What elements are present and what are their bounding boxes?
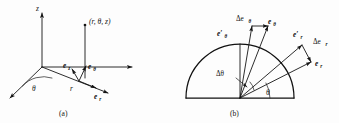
panel-b-caption: (b) — [230, 109, 239, 118]
e-theta-prime-base: e′ — [217, 29, 222, 38]
theta-label-b: θ — [266, 88, 270, 97]
e-r-prime-base: e′ — [293, 30, 298, 39]
e-theta-subscript-b: θ — [273, 21, 276, 27]
e-r-prime-subscript: r — [300, 34, 303, 40]
e-theta-prime-label: e′ θ — [217, 29, 227, 39]
delta-e-r-base: Δe — [313, 38, 321, 46]
e-r-subscript-b: r — [320, 63, 323, 69]
e-theta-label-b: e θ — [268, 17, 276, 27]
e-theta-base-b: e — [268, 17, 272, 26]
delta-theta-label-b: Δθ — [216, 70, 225, 78]
delta-e-r-label: Δe r — [313, 38, 329, 47]
panel-b-labels: Δe θ e θ e′ θ e′ r Δe r e r Δθ — [0, 0, 339, 123]
figure-root: z (r, θ, z) θ r e z e θ e r (a) Δe θ e — [0, 0, 339, 123]
delta-e-theta-base: Δe — [236, 15, 244, 23]
delta-e-theta-subscript: θ — [249, 18, 252, 24]
e-theta-prime-subscript: θ — [224, 33, 227, 39]
delta-e-r-subscript: r — [326, 41, 329, 47]
e-r-prime-label: e′ r — [293, 30, 303, 40]
e-r-base-b: e — [315, 59, 319, 68]
delta-e-theta-label: Δe θ — [236, 15, 252, 24]
e-r-label-b: e r — [315, 59, 323, 69]
